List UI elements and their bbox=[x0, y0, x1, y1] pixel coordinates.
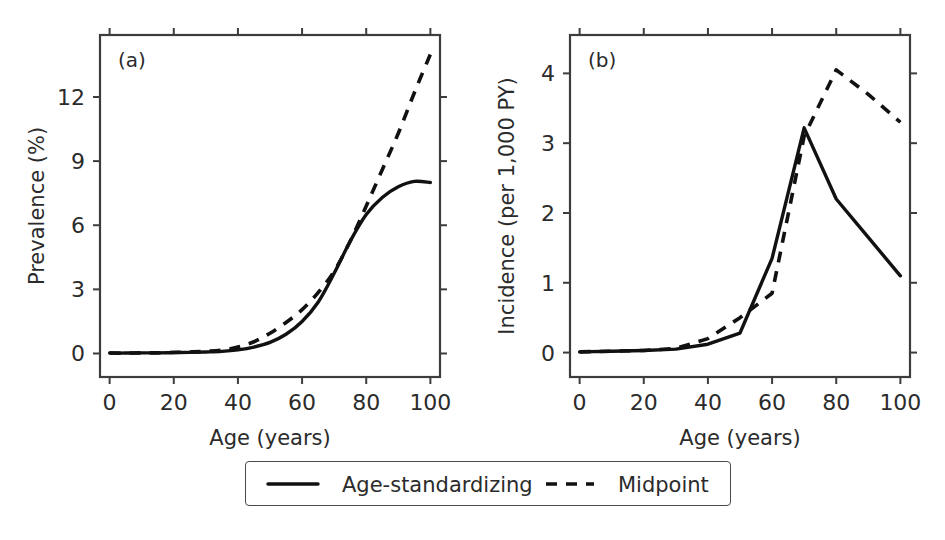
y-tick-label-b-1: 1 bbox=[541, 271, 555, 296]
y-tick-label-a-6: 6 bbox=[71, 213, 85, 238]
panel-b: 02040608010001234(b)Age (years)Incidence… bbox=[470, 0, 940, 450]
y-tick-label-a-0: 0 bbox=[71, 341, 85, 366]
x-tick-label-b-20: 20 bbox=[630, 390, 658, 415]
x-axis-label-a: Age (years) bbox=[209, 426, 330, 450]
legend-label-midpoint: Midpoint bbox=[618, 473, 709, 497]
series-a-midpoint bbox=[110, 54, 431, 353]
y-tick-label-a-3: 3 bbox=[71, 277, 85, 302]
figure-canvas: 020406080100036912(a)Age (years)Prevalen… bbox=[0, 0, 945, 540]
y-tick-label-b-2: 2 bbox=[541, 201, 555, 226]
y-axis-label-a: Prevalence (%) bbox=[25, 127, 49, 285]
x-tick-label-b-60: 60 bbox=[758, 390, 786, 415]
x-tick-label-a-0: 0 bbox=[103, 390, 117, 415]
panel-a-plot: 020406080100036912(a)Age (years)Prevalen… bbox=[0, 0, 470, 450]
panel-tag-b: (b) bbox=[588, 48, 616, 72]
x-tick-label-a-100: 100 bbox=[409, 390, 451, 415]
panel-b-plot: 02040608010001234(b)Age (years)Incidence… bbox=[470, 0, 940, 450]
series-a-age-standardizing bbox=[110, 181, 431, 353]
x-tick-label-a-40: 40 bbox=[224, 390, 252, 415]
legend: Age-standardizing Midpoint bbox=[245, 461, 731, 506]
legend-content: Age-standardizing Midpoint bbox=[246, 462, 730, 504]
legend-label-age-standardizing: Age-standardizing bbox=[342, 473, 533, 497]
x-tick-label-a-60: 60 bbox=[288, 390, 316, 415]
series-b-midpoint bbox=[580, 70, 901, 352]
x-tick-label-b-100: 100 bbox=[879, 390, 921, 415]
plot-frame-a bbox=[100, 35, 440, 377]
y-tick-label-a-9: 9 bbox=[71, 149, 85, 174]
x-tick-label-a-80: 80 bbox=[352, 390, 380, 415]
x-tick-label-b-80: 80 bbox=[822, 390, 850, 415]
y-tick-label-b-3: 3 bbox=[541, 131, 555, 156]
y-axis-label-b: Incidence (per 1,000 PY) bbox=[495, 77, 519, 334]
x-axis-label-b: Age (years) bbox=[679, 426, 800, 450]
panel-tag-a: (a) bbox=[118, 48, 146, 72]
y-tick-label-a-12: 12 bbox=[57, 85, 85, 110]
x-tick-label-a-20: 20 bbox=[160, 390, 188, 415]
x-tick-label-b-40: 40 bbox=[694, 390, 722, 415]
panel-a: 020406080100036912(a)Age (years)Prevalen… bbox=[0, 0, 470, 450]
y-tick-label-b-4: 4 bbox=[541, 61, 555, 86]
x-tick-label-b-0: 0 bbox=[573, 390, 587, 415]
y-tick-label-b-0: 0 bbox=[541, 341, 555, 366]
